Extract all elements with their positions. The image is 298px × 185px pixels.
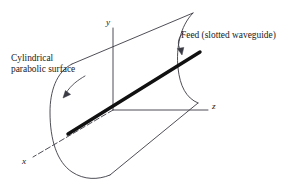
- z-axis-label: z: [212, 101, 216, 111]
- surface-leader-arrowhead: [63, 91, 71, 98]
- surface-label-line-2: parabolic surface: [11, 64, 75, 75]
- feed-waveguide-line: [68, 52, 200, 134]
- feed-leader-arrowhead: [177, 47, 183, 55]
- x-axis-label: x: [22, 156, 26, 166]
- near-parabola-arc: [50, 64, 110, 178]
- y-axis-label: y: [106, 17, 110, 27]
- top-rim-edge: [72, 13, 193, 64]
- x-axis-line: [33, 110, 113, 157]
- figure-container: Cylindrical parabolic surface Feed (slot…: [0, 0, 298, 185]
- bottom-rim-edge: [110, 103, 198, 175]
- surface-label-line-1: Cylindrical: [11, 53, 75, 64]
- surface-leader-curve: [66, 76, 85, 93]
- feed-label: Feed (slotted waveguide): [181, 30, 276, 41]
- reflector-diagram-svg: [0, 0, 298, 185]
- cylindrical-parabolic-surface-label: Cylindrical parabolic surface: [11, 53, 75, 75]
